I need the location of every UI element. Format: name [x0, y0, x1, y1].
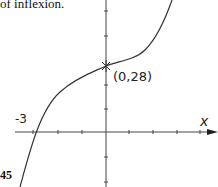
inflexion-point-marker: [102, 60, 110, 72]
y-axis: [104, 0, 108, 187]
x-axis-label: x: [200, 113, 208, 129]
cubic-curve: [20, 0, 172, 187]
x-axis: [15, 130, 210, 134]
point-label: (0,28): [113, 69, 152, 84]
graph-canvas: [0, 0, 218, 187]
x-intercept-label: -3: [15, 112, 27, 126]
page-number-fragment: 45: [0, 168, 12, 183]
x-axis-arrow-icon: [207, 129, 218, 135]
